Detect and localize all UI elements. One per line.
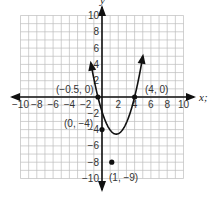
y-axis-down-arrow-icon xyxy=(98,181,106,192)
y-tick-label: 8 xyxy=(93,26,99,37)
point-label-one-neg-nine: (1, −9) xyxy=(109,172,138,183)
x-tick-label: 2 xyxy=(116,99,122,110)
point-marker xyxy=(95,94,100,99)
x-tick-label: −8 xyxy=(31,99,43,110)
point-label-four-zero: (4, 0) xyxy=(145,84,168,95)
point-marker xyxy=(99,127,104,132)
point-label-neg-half-zero: (−0.5, 0) xyxy=(56,84,94,95)
x-axis-label: x; xyxy=(198,91,208,103)
x-tick-label: −4 xyxy=(64,99,76,110)
point-marker xyxy=(132,94,137,99)
y-tick-label: 6 xyxy=(93,43,99,54)
x-tick-label: −6 xyxy=(47,99,59,110)
x-tick-label: −10 xyxy=(12,99,29,110)
coordinate-plane: −10−8−6−4−2246810 −10−8−6−4−2246810 x; y… xyxy=(0,0,211,197)
curve-right-arrow-icon xyxy=(138,54,146,65)
y-tick-label: −6 xyxy=(88,140,100,151)
x-tick-label: 6 xyxy=(148,99,154,110)
point-label-zero-neg-four: (0, −4) xyxy=(64,118,93,129)
y-tick-label: 10 xyxy=(88,10,100,21)
y-tick-label: −8 xyxy=(88,157,100,168)
x-tick-label: 10 xyxy=(178,99,190,110)
point-marker xyxy=(109,160,114,165)
y-tick-label: −10 xyxy=(82,173,99,184)
y-axis-label: y xyxy=(99,0,105,6)
y-axis-up-arrow-icon xyxy=(98,5,106,16)
x-tick-label: 8 xyxy=(164,99,170,110)
